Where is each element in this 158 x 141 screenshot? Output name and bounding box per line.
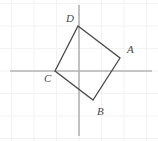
vertex-label-b: B [97, 105, 104, 117]
vertex-label-a: A [126, 43, 134, 55]
vertex-label-d: D [65, 12, 74, 24]
geometry-figure: ABCD [0, 0, 158, 141]
figure-canvas: ABCD [0, 0, 158, 141]
vertex-label-c: C [44, 72, 52, 84]
